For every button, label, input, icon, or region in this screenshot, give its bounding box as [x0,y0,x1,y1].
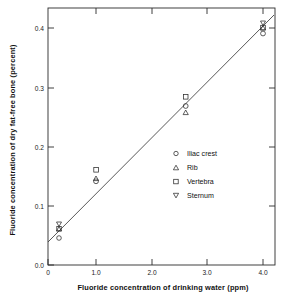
marker-square-vertebra [183,95,188,100]
marker-circle-iliac-crest [57,236,62,241]
legend-triangle-down-icon [173,193,178,198]
x-axis-title: Fluoride concentration of drinking water… [77,283,249,292]
x-axis-ticks-top [96,8,263,14]
marker-circle-iliac-crest [261,31,266,36]
y-tick-labels: 0.0 0.1 0.2 0.3 0.4 [35,25,44,269]
x-tick-label: 1.0 [91,269,100,276]
y-axis-title: Fluoride concentration of dry fat-free b… [8,44,17,235]
legend-item-rib: Rib [187,164,198,172]
x-tick-label: 3.0 [202,269,211,276]
x-tick-label: 4.0 [258,269,267,276]
marker-triangle-up-rib [183,110,188,115]
legend-item-sternum: Sternum [187,192,214,200]
y-tick-label: 0.1 [35,203,44,210]
y-axis-ticks-right [269,28,275,206]
regression-line [48,15,274,242]
legend-square-icon [174,179,179,184]
marker-square-vertebra [94,168,99,173]
x-tick-labels: 0 1.0 2.0 3.0 4.0 [46,269,268,276]
y-tick-label: 0.2 [35,144,44,151]
y-tick-label: 0.3 [35,85,44,92]
y-tick-label: 0.4 [35,25,44,32]
axes-frame [48,8,275,265]
legend-triangle-up-icon [173,165,178,170]
y-tick-label: 0.0 [35,262,44,269]
x-tick-label: 2.0 [147,269,156,276]
marker-circle-iliac-crest [94,179,99,184]
marker-circle-iliac-crest [183,104,188,109]
x-axis-ticks [48,259,263,265]
legend-item-iliac-crest: Iliac crest [187,150,217,158]
scatter-plot-figure: 0 1.0 2.0 3.0 4.0 0.0 0.1 0.2 0.3 0.4 Fl… [0,0,299,298]
legend: Iliac crest Rib Vertebra Sternum [173,150,217,200]
plot-canvas: 0 1.0 2.0 3.0 4.0 0.0 0.1 0.2 0.3 0.4 Fl… [0,0,299,298]
legend-item-vertebra: Vertebra [187,178,214,186]
axes-box [48,8,275,265]
x-tick-label: 0 [46,269,50,276]
data-markers [57,21,266,240]
legend-circle-icon [174,151,178,155]
y-axis-ticks [48,28,54,265]
